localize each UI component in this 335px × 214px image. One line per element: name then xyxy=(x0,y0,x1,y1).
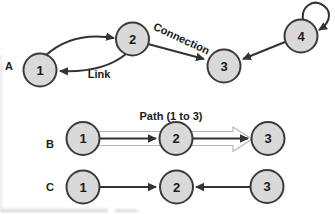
path-annotation-label: Path (1 to 3) xyxy=(140,110,203,122)
edge-a-1-to-2-curved xyxy=(45,36,114,56)
node-number: 1 xyxy=(79,131,86,146)
node-a-1: 1 xyxy=(24,54,57,87)
graph-row-b: Path (1 to 3) B 1 2 3 xyxy=(46,110,284,155)
node-b-3: 3 xyxy=(252,122,285,155)
bottom-ghost-strip-2 xyxy=(115,209,137,213)
row-c-label: C xyxy=(46,181,54,193)
node-b-1: 1 xyxy=(67,122,100,155)
connection-edge-label: Connection xyxy=(152,20,212,57)
node-a-3: 3 xyxy=(208,50,241,83)
graph-row-a: A Link Connection 1 2 3 4 xyxy=(5,3,329,87)
bottom-ghost-strip xyxy=(0,209,108,214)
node-number: 2 xyxy=(173,180,180,195)
node-c-3: 3 xyxy=(251,170,284,203)
node-a-2: 2 xyxy=(116,23,149,56)
node-c-1: 1 xyxy=(67,171,100,204)
graph-row-c: C 1 2 3 xyxy=(46,170,283,204)
page-edge-line xyxy=(0,55,2,213)
node-number: 3 xyxy=(220,59,227,74)
node-number: 1 xyxy=(36,63,43,78)
node-number: 3 xyxy=(264,131,271,146)
node-number: 4 xyxy=(297,29,305,44)
node-number: 3 xyxy=(263,179,270,194)
edge-a-4-to-3 xyxy=(243,42,285,59)
link-edge-label: Link xyxy=(88,68,111,80)
node-b-2: 2 xyxy=(160,122,193,155)
node-a-4: 4 xyxy=(285,20,318,53)
row-b-label: B xyxy=(46,138,54,150)
node-number: 2 xyxy=(129,32,136,47)
graph-diagram-figure: A Link Connection 1 2 3 4 xyxy=(0,0,335,213)
diagram-canvas: A Link Connection 1 2 3 4 xyxy=(0,0,335,213)
node-number: 2 xyxy=(172,131,179,146)
node-number: 1 xyxy=(79,180,86,195)
row-a-label: A xyxy=(5,60,13,72)
node-c-2: 2 xyxy=(160,171,193,204)
